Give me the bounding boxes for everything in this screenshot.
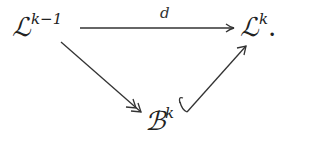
arrow-surjection	[61, 42, 141, 112]
arrow-d	[80, 24, 234, 32]
diagram-arrows	[0, 0, 309, 145]
arrow-inclusion	[179, 46, 246, 112]
